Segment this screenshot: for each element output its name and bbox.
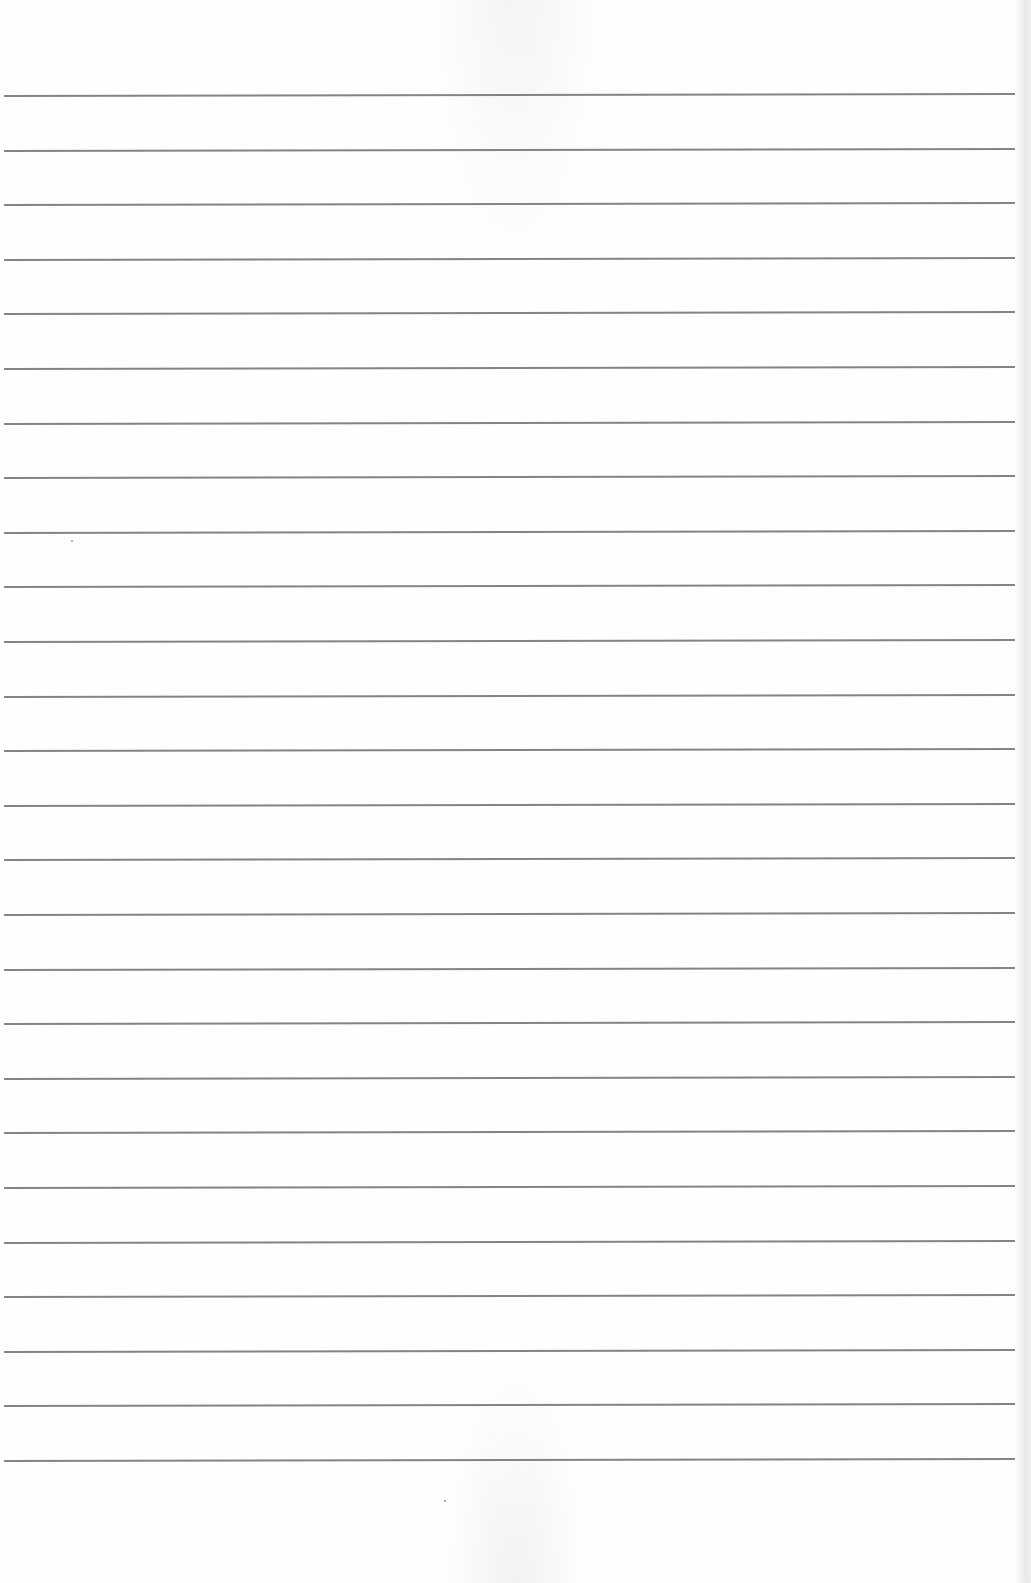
ruled-line	[4, 257, 1015, 261]
ruled-line	[4, 857, 1015, 861]
ruled-line	[4, 693, 1015, 697]
ruled-line	[4, 1239, 1015, 1243]
ruled-line	[4, 639, 1015, 643]
ruled-line	[4, 1021, 1015, 1025]
ruled-line	[4, 147, 1015, 151]
ruled-line	[4, 1403, 1015, 1407]
ruled-line	[4, 966, 1015, 970]
ruled-line	[4, 311, 1015, 315]
paper-speck	[71, 540, 73, 542]
ruled-line	[4, 366, 1015, 370]
ruled-line	[4, 748, 1015, 752]
ruled-line	[4, 912, 1015, 916]
ruled-line	[4, 420, 1015, 424]
ruled-line	[4, 1185, 1015, 1189]
ruled-line	[4, 1349, 1015, 1353]
ruled-line	[4, 584, 1015, 588]
paper-speck	[444, 1500, 446, 1502]
ruled-line	[4, 803, 1015, 807]
ruled-line	[4, 530, 1015, 534]
ruled-line	[4, 93, 1015, 97]
ruled-line	[4, 202, 1015, 206]
ruled-line	[4, 1294, 1015, 1298]
ruled-paper-sheet	[0, 0, 1031, 1583]
ruled-line	[4, 1076, 1015, 1080]
page-edge-shadow	[1015, 0, 1031, 1583]
ruled-lines	[0, 0, 1031, 1583]
ruled-line	[4, 1130, 1015, 1134]
ruled-line	[4, 475, 1015, 479]
ruled-line	[4, 1458, 1015, 1462]
